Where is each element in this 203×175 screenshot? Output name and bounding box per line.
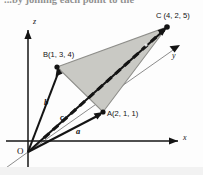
vector-label-a: a <box>76 127 80 136</box>
vector-label-b: b <box>44 98 48 107</box>
shaded-triangle-abc <box>57 27 167 112</box>
axis-label-z: z <box>33 18 36 26</box>
vector-label-c: c <box>60 113 64 122</box>
axis-label-x: x <box>183 134 187 142</box>
axis-label-y: y <box>172 52 176 60</box>
vector-diagram-figure: ...by joining each point to the <box>0 0 203 175</box>
figure-canvas <box>0 0 203 175</box>
point-label-b: B(1, 3, 4) <box>43 51 74 59</box>
axis-x-arrowhead <box>169 137 178 144</box>
point-dot-a <box>100 109 105 114</box>
point-label-a: A(2, 1, 1) <box>107 110 138 118</box>
vector-b-shaft <box>28 70 60 153</box>
axis-z-arrowhead <box>24 30 31 39</box>
axis-label-origin: O <box>17 147 24 156</box>
bottom-crop-band <box>0 167 203 175</box>
point-dot-b <box>54 64 59 69</box>
triangle-highlight-speck <box>144 43 147 46</box>
point-dot-c <box>164 24 170 30</box>
point-label-c: C (4, 2, 5) <box>156 12 190 20</box>
